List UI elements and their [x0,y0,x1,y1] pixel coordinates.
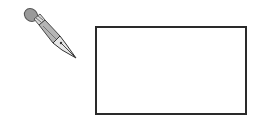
rectangle-shape[interactable] [95,26,247,115]
pen-icon[interactable] [20,6,80,62]
drawing-canvas[interactable] [0,0,260,123]
